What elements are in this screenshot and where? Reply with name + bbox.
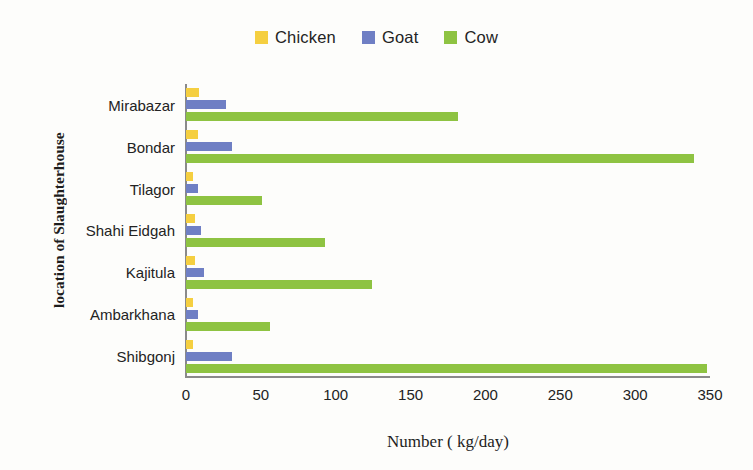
x-tick-label: 350 — [697, 386, 722, 403]
x-axis-title: Number ( kg/day) — [186, 432, 710, 452]
bar-cow — [186, 154, 694, 163]
x-tick-label: 0 — [182, 386, 190, 403]
x-tick-label: 300 — [623, 386, 648, 403]
bar-group: Ambarkhana — [186, 293, 710, 335]
bar-cow — [186, 364, 707, 373]
bar-chicken — [186, 172, 193, 181]
bar-group: Shahi Eidgah — [186, 210, 710, 252]
bar-chart: ChickenGoatCow location of Slaughterhous… — [0, 0, 753, 470]
bar-goat — [186, 226, 201, 235]
plot-area: MirabazarBondarTilagorShahi EidgahKajitu… — [186, 84, 710, 377]
bar-goat — [186, 184, 198, 193]
bar-group: Kajitula — [186, 251, 710, 293]
bar-cow — [186, 196, 262, 205]
bar-goat — [186, 268, 204, 277]
x-tick-label: 150 — [398, 386, 423, 403]
legend-label: Goat — [382, 28, 419, 47]
bar-group: Tilagor — [186, 168, 710, 210]
y-tick-label: Kajitula — [126, 264, 186, 281]
bar-chicken — [186, 88, 199, 97]
x-tick-label: 50 — [253, 386, 270, 403]
bar-cow — [186, 280, 372, 289]
bar-group: Shibgonj — [186, 335, 710, 377]
bar-goat — [186, 142, 232, 151]
x-tick-label: 100 — [323, 386, 348, 403]
legend-label: Cow — [464, 28, 498, 47]
chart-legend: ChickenGoatCow — [0, 28, 753, 47]
x-tick-label: 250 — [548, 386, 573, 403]
x-tick-label: 200 — [473, 386, 498, 403]
y-tick-label: Mirabazar — [108, 96, 186, 113]
y-tick-label: Ambarkhana — [90, 306, 186, 323]
bar-goat — [186, 100, 226, 109]
bar-chicken — [186, 298, 193, 307]
legend-entry-cow: Cow — [444, 28, 498, 47]
y-tick-label: Shahi Eidgah — [86, 222, 186, 239]
bar-goat — [186, 352, 232, 361]
bar-chicken — [186, 340, 193, 349]
bar-group: Mirabazar — [186, 84, 710, 126]
bar-chicken — [186, 256, 195, 265]
y-tick-label: Bondar — [127, 138, 186, 155]
legend-swatch-icon — [444, 31, 457, 44]
y-tick-label: Shibgonj — [117, 348, 186, 365]
bar-cow — [186, 322, 270, 331]
y-tick-label: Tilagor — [130, 180, 186, 197]
legend-entry-goat: Goat — [362, 28, 419, 47]
bar-goat — [186, 310, 198, 319]
bar-cow — [186, 112, 458, 121]
bar-group: Bondar — [186, 126, 710, 168]
legend-label: Chicken — [275, 28, 336, 47]
bar-cow — [186, 238, 325, 247]
bar-chicken — [186, 214, 195, 223]
y-axis-title: location of Slaughterhouse — [46, 80, 72, 360]
legend-swatch-icon — [362, 31, 375, 44]
bar-chicken — [186, 130, 198, 139]
legend-swatch-icon — [255, 31, 268, 44]
legend-entry-chicken: Chicken — [255, 28, 336, 47]
